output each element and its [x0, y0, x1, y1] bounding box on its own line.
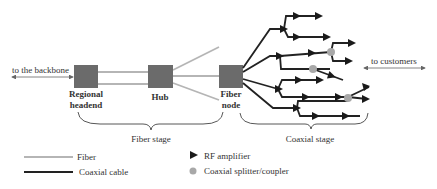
legend-amplifier-label: RF amplifier	[204, 151, 250, 161]
fiber-node-label-2: node	[222, 100, 241, 110]
rf-amplifier-icon	[348, 39, 356, 47]
hub-label: Hub	[151, 92, 168, 102]
rf-amplifier-icon	[308, 49, 316, 57]
splitter-icon	[190, 168, 197, 175]
splitter-icon	[309, 65, 317, 73]
rf-amplifier-icon	[293, 33, 301, 41]
legend-coax-label: Coaxial cable	[79, 167, 128, 177]
rf-amplifier-icon	[312, 112, 320, 120]
backbone-connection: to the backbone	[12, 65, 73, 77]
backbone-label: to the backbone	[12, 65, 69, 75]
rf-amplifier-icon	[362, 95, 370, 103]
legend-fiber-label: Fiber	[77, 152, 96, 162]
rf-amplifier-icon	[190, 151, 198, 159]
rf-amplifiers	[275, 12, 370, 120]
coaxial-stage-label: Coaxial stage	[286, 134, 335, 144]
fiber-stage-brace	[78, 112, 223, 130]
hfc-network-diagram: to the backbone Regional headend Hub Fib…	[0, 0, 437, 189]
regional-headend-label-1: Regional	[69, 89, 104, 99]
legend: Fiber Coaxial cable RF amplifier Coaxial…	[24, 151, 289, 177]
rf-amplifier-icon	[295, 76, 303, 84]
fiber-node-box	[219, 65, 243, 88]
rf-amplifier-icon	[345, 57, 353, 65]
regional-headend-label-2: headend	[70, 100, 103, 110]
regional-headend-box	[74, 65, 98, 88]
rf-amplifier-icon	[315, 12, 323, 20]
fiber-node-label-1: Fiber	[221, 89, 242, 99]
rf-amplifier-icon	[302, 93, 310, 101]
rf-amplifier-icon	[342, 112, 350, 120]
legend-splitter-label: Coaxial splitter/coupler	[204, 166, 289, 176]
rf-amplifier-icon	[316, 76, 324, 84]
hub-box	[148, 65, 173, 88]
rf-amplifier-icon	[323, 33, 331, 41]
customers-connection: to customers	[364, 56, 425, 68]
rf-amplifier-icon	[335, 93, 343, 101]
rf-amplifier-icon	[327, 71, 337, 81]
splitter-icon	[327, 48, 335, 56]
rf-amplifier-icon	[293, 12, 301, 20]
customers-label: to customers	[371, 56, 417, 66]
splitter-icon	[344, 94, 352, 102]
fiber-stage-label: Fiber stage	[131, 134, 171, 144]
